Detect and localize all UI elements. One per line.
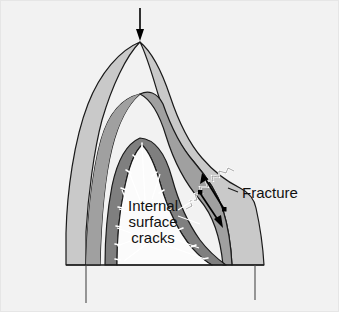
- crack-tick: [118, 207, 123, 208]
- fracture-diagram-svg: Fracture Internal surface cracks: [0, 0, 339, 312]
- surface-label: surface: [128, 213, 177, 230]
- internal-label: Internal: [128, 197, 178, 214]
- fracture-label: Fracture: [242, 184, 298, 201]
- crack-tick: [116, 226, 121, 227]
- cracks-label: cracks: [131, 229, 174, 246]
- fracture-arrow-upper-tail: [222, 207, 227, 212]
- crack-tick: [115, 259, 120, 260]
- fracture-arrow-lower-tail: [198, 190, 203, 195]
- figure-container: Fracture Internal surface cracks: [0, 0, 339, 312]
